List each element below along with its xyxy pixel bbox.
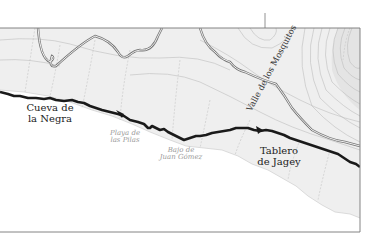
label-line: de Jagey (254, 157, 304, 168)
label-playa-de-las-pilas: Playa de las Pilas (105, 130, 145, 145)
label-line: la Negra (20, 114, 80, 125)
label-cueva-de-la-negra: Cueva de la Negra (20, 103, 80, 124)
label-tablero-de-jagey: Tablero de Jagey (254, 146, 304, 167)
label-line: Juan Gómez (156, 154, 206, 161)
label-bajo-de-juan-gomez: Bajo de Juan Gómez (156, 147, 206, 162)
label-line: las Pilas (105, 137, 145, 144)
trail-map (0, 0, 378, 250)
label-line: Tablero (254, 146, 304, 157)
label-line: Cueva de (20, 103, 80, 114)
